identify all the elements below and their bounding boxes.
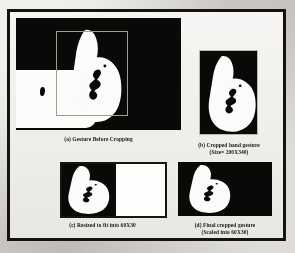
panel-a-image	[16, 18, 181, 130]
panel-b-caption-line1: (b) Cropped hand gesture	[198, 142, 260, 148]
crop-selection-rectangle	[56, 31, 128, 116]
panel-c-caption-line1: (c) Resized to fit into 60X30	[69, 222, 136, 228]
panel-b-cropped-hand-gesture	[199, 50, 258, 135]
panel-c-image	[62, 164, 116, 216]
panel-b-caption-line2: (Size= 200X340)	[182, 149, 276, 156]
figure-root: (a) Gesture Before Cropping (b	[0, 0, 295, 253]
panel-d-final-cropped-gesture	[178, 162, 272, 216]
thumbs-up-hand-icon	[180, 163, 234, 215]
thumbs-up-hand-icon	[59, 164, 113, 216]
panel-c-resized-to-fit	[60, 162, 167, 218]
panel-a-caption-line1: (a) Gesture Before Cropping	[64, 136, 132, 142]
panel-d-caption: (d) Final cropped gesture (Scaled into 6…	[160, 222, 290, 236]
panel-a-caption: (a) Gesture Before Cropping	[16, 136, 181, 143]
figure-inner-canvas: (a) Gesture Before Cropping (b	[10, 12, 283, 238]
panel-d-image	[178, 162, 272, 216]
panel-a-gesture-before-cropping	[16, 18, 181, 130]
thumbs-up-hand-icon	[200, 53, 257, 134]
panel-b-caption: (b) Cropped hand gesture (Size= 200X340)	[182, 142, 276, 156]
figure-outer-frame: (a) Gesture Before Cropping (b	[7, 9, 286, 241]
panel-d-caption-line1: (d) Final cropped gesture	[195, 222, 256, 228]
panel-b-image	[200, 51, 257, 134]
panel-c-caption: (c) Resized to fit into 60X30	[30, 222, 175, 229]
panel-d-caption-line2: (Scaled into 60X30)	[160, 229, 290, 236]
